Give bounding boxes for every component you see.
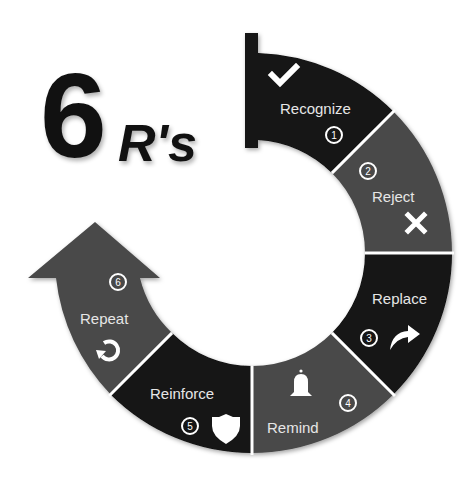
step-number-6: 6 [115,277,121,288]
step-number-2: 2 [365,166,371,177]
cycle-ring: Recognize 1 2 Reject Replace 3 4 Remind … [0,0,471,485]
bell-top [299,369,302,372]
step-number-3: 3 [366,333,372,344]
step-number-1: 1 [331,130,337,141]
step-label-recognize: Recognize [280,100,351,117]
step-label-repeat: Repeat [80,310,129,327]
step-number-4: 4 [345,398,351,409]
six-rs-diagram: 6 R's [0,0,471,485]
step-label-replace: Replace [372,290,427,307]
step-label-reject: Reject [372,188,415,205]
step-label-remind: Remind [267,419,319,436]
step-label-reinforce: Reinforce [150,385,214,402]
step-number-5: 5 [187,421,193,432]
